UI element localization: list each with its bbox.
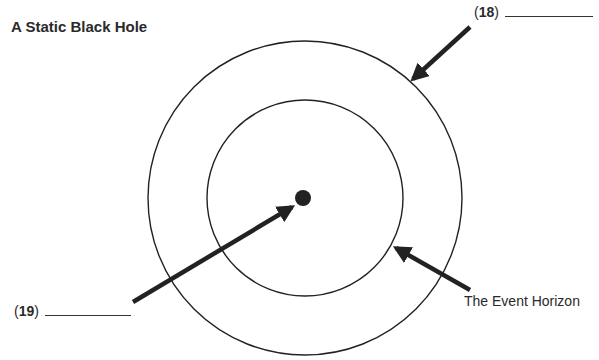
label-19-number: 19	[19, 303, 35, 319]
event-horizon-label: The Event Horizon	[464, 293, 580, 309]
label-18: (18)	[474, 4, 593, 20]
singularity-dot	[295, 190, 311, 206]
label-18-number: 18	[479, 4, 495, 20]
label-19: (19)	[14, 303, 131, 319]
answer-blank-18[interactable]	[505, 15, 593, 17]
answer-blank-19[interactable]	[45, 314, 131, 316]
arrow-18	[413, 27, 470, 79]
arrow-19	[133, 207, 292, 302]
arrow-event-horizon	[396, 248, 470, 290]
